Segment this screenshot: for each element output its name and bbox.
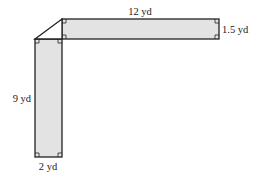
corner-triangle [35, 19, 62, 39]
label-top-length: 12 yd [128, 6, 152, 17]
label-bottom-width: 2 yd [39, 161, 58, 172]
label-left-length: 9 yd [13, 93, 32, 104]
l-shaped-region-diagram: 12 yd 1.5 yd 9 yd 2 yd [0, 0, 262, 180]
horizontal-rectangle [62, 19, 219, 39]
vertical-rectangle [35, 39, 62, 157]
label-right-width: 1.5 yd [222, 24, 249, 35]
